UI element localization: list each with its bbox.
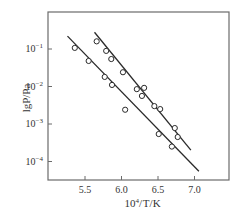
x-tick-label: 6.0 xyxy=(115,184,128,195)
data-point-series-1 xyxy=(152,104,157,109)
data-point-series-1 xyxy=(175,134,180,139)
data-points xyxy=(72,39,180,149)
x-tick-label: 7.0 xyxy=(188,184,201,195)
data-point-series-2 xyxy=(86,58,91,63)
data-point-series-2 xyxy=(156,131,161,136)
data-point-series-1 xyxy=(139,93,144,98)
plot-area-border xyxy=(48,12,229,180)
y-tick-label: 10−1 xyxy=(26,42,44,54)
data-point-series-1 xyxy=(94,39,99,44)
data-point-series-1 xyxy=(158,106,163,111)
x-axis-label: 104/ T/K xyxy=(124,197,160,209)
data-point-series-2 xyxy=(102,74,107,79)
plot-frame xyxy=(48,12,229,180)
data-point-series-1 xyxy=(104,48,109,53)
data-point-series-1 xyxy=(142,85,147,90)
data-point-series-2 xyxy=(123,107,128,112)
y-tick-label: 10−3 xyxy=(26,117,44,129)
data-point-series-2 xyxy=(109,82,114,87)
fit-lines xyxy=(67,32,198,171)
data-point-series-1 xyxy=(172,125,177,130)
data-point-series-1 xyxy=(109,56,114,61)
x-tick-label: 6.5 xyxy=(152,184,165,195)
data-point-series-1 xyxy=(120,70,125,75)
chart: 5.56.06.57.010−110−210−310−4 104/ T/KlgP… xyxy=(0,0,245,216)
x-tick-label: 5.5 xyxy=(79,184,92,195)
y-tick-label: 10−4 xyxy=(26,155,44,167)
data-point-series-1 xyxy=(134,87,139,92)
data-point-series-2 xyxy=(72,45,77,50)
fit-line-2 xyxy=(67,36,198,171)
data-point-series-2 xyxy=(169,144,174,149)
axis-ticks: 5.56.06.57.010−110−210−310−4 xyxy=(26,42,201,195)
y-axis-label: lgP/Pa xyxy=(20,84,32,113)
